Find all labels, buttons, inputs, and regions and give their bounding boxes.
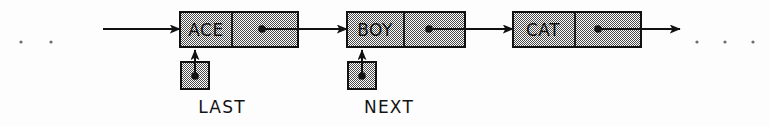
pointer-last-dot: [191, 72, 199, 80]
node-ace-key: ACE: [188, 20, 223, 40]
pointer-next[interactable]: NEXT: [348, 50, 414, 117]
ellipsis-left: [19, 40, 52, 43]
node-cat-key: CAT: [526, 20, 560, 40]
node-boy-key: BOY: [357, 20, 393, 40]
pointer-next-dot: [358, 72, 366, 80]
ellipsis-right: [695, 40, 754, 43]
pointer-next-label: NEXT: [364, 97, 414, 117]
linked-list-diagram: ACE BOY CAT: [0, 0, 770, 127]
diagram-canvas: ACE BOY CAT: [0, 0, 770, 127]
pointer-last-label: LAST: [198, 97, 245, 117]
pointer-last[interactable]: LAST: [181, 50, 246, 117]
